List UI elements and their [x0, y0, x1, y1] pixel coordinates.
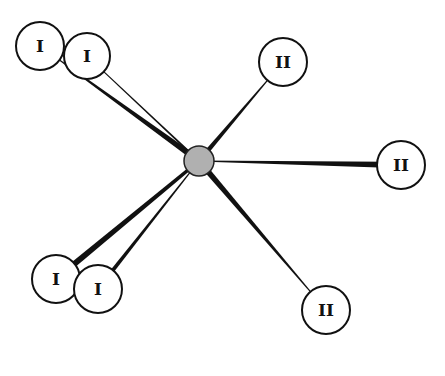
center-hub: [184, 146, 214, 176]
edge-n7: [197, 159, 317, 299]
node-n5: I: [32, 255, 80, 303]
node-label: I: [36, 36, 44, 56]
node-label: I: [94, 279, 102, 299]
node-label: I: [83, 46, 91, 66]
edge-n6: [105, 161, 199, 279]
edge-n5: [65, 160, 200, 272]
node-n6: I: [74, 265, 122, 313]
node-label: II: [393, 155, 409, 175]
node-label: II: [318, 300, 334, 320]
node-n3: II: [259, 38, 307, 86]
edge-n2: [97, 65, 200, 162]
node-label: I: [52, 269, 60, 289]
edge-n4: [199, 161, 387, 168]
node-label: II: [275, 52, 291, 72]
node-n4: II: [377, 141, 425, 189]
node-n7: II: [302, 286, 350, 334]
node-n2: I: [64, 33, 110, 79]
node-n1: I: [16, 22, 64, 70]
network-diagram: IIIIIIIIII: [0, 0, 445, 376]
